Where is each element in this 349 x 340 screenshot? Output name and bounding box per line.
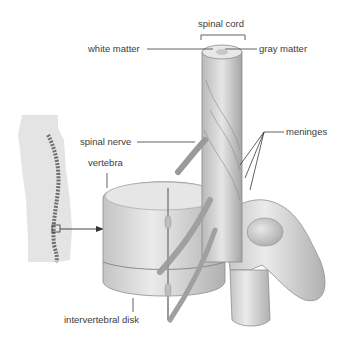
label-spinal-nerve: spinal nerve: [80, 136, 131, 147]
label-spinal-cord: spinal cord: [198, 18, 244, 29]
gray-matter-core: [216, 49, 228, 55]
spinal-cord-bracket: [201, 35, 245, 40]
label-white-matter: white matter: [88, 43, 140, 54]
spinal-cord: [202, 45, 242, 262]
label-gray-matter: gray matter: [259, 43, 307, 54]
label-intervertebral-disk: intervertebral disk: [64, 314, 139, 325]
label-meninges: meninges: [286, 126, 327, 137]
label-vertebra: vertebra: [88, 157, 123, 168]
